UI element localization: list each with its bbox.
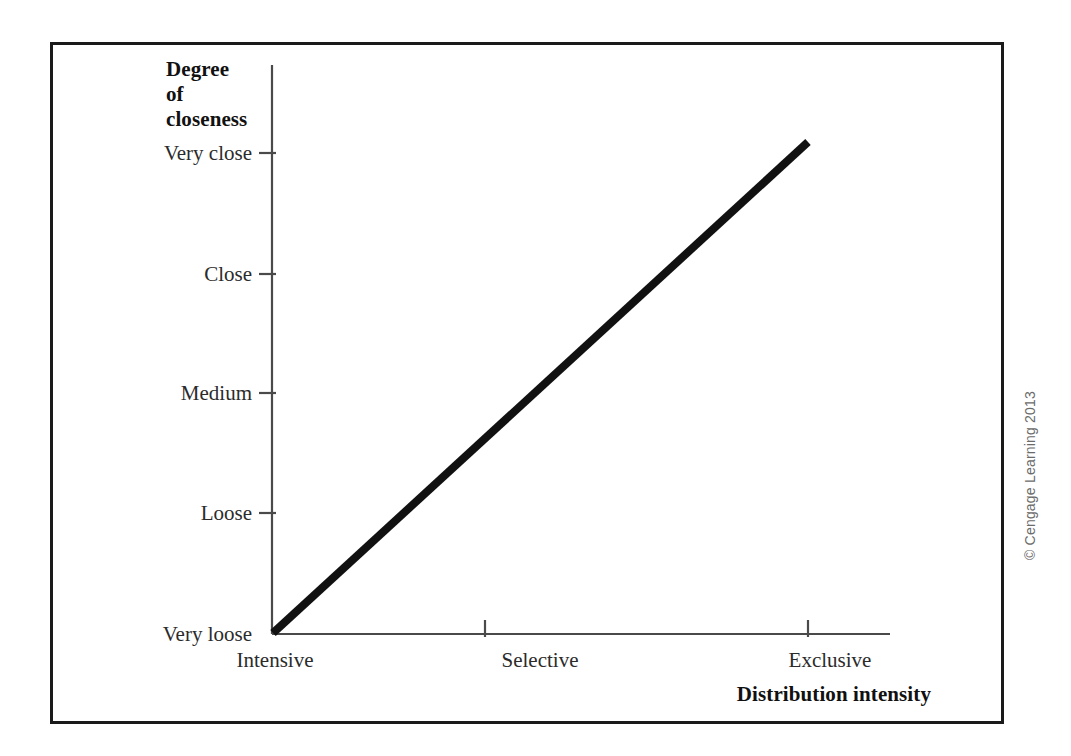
x-tick-label-exclusive: Exclusive xyxy=(720,648,940,673)
x-tick-label-selective: Selective xyxy=(430,648,650,673)
x-tick-label-intensive: Intensive xyxy=(165,648,385,673)
data-line-degree-of-closeness xyxy=(273,142,808,633)
y-tick-label-very-close: Very close xyxy=(72,141,252,166)
figure-root: Degree of closeness Very close Close Med… xyxy=(0,0,1071,756)
y-tick-label-medium: Medium xyxy=(72,381,252,406)
y-axis-title: Degree of closeness xyxy=(166,57,247,132)
y-tick-label-very-loose: Very loose xyxy=(72,622,252,647)
copyright-notice: © Cengage Learning 2013 xyxy=(1022,391,1038,560)
y-tick-label-close: Close xyxy=(72,262,252,287)
x-axis-title: Distribution intensity xyxy=(600,682,931,707)
y-tick-label-loose: Loose xyxy=(72,501,252,526)
